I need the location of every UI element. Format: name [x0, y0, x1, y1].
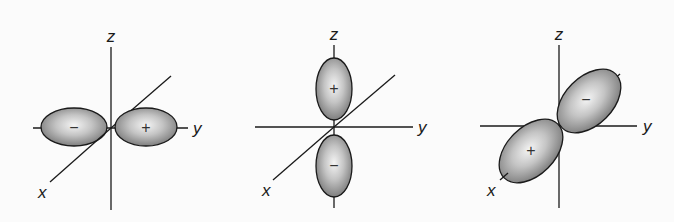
y-axis-label: y	[642, 117, 653, 136]
z-axis-label: z	[554, 25, 564, 44]
panel-pz: + − z y x	[255, 25, 428, 208]
x-axis-label: x	[486, 181, 496, 200]
y-axis-label: y	[192, 119, 203, 138]
z-axis-label: z	[106, 27, 116, 46]
sign-label: +	[526, 142, 535, 159]
y-axis-label: y	[417, 118, 428, 137]
sign-label: +	[329, 80, 338, 97]
sign-label: −	[69, 119, 78, 136]
panel-py: − + z y x	[33, 27, 203, 210]
x-axis-label: x	[261, 181, 271, 200]
x-axis-label: x	[37, 183, 47, 202]
sign-label: −	[581, 91, 590, 108]
orbital-diagram: − + z y x + − z y x − + z y x	[0, 0, 674, 222]
sign-label: −	[329, 157, 338, 174]
sign-label: +	[141, 119, 150, 136]
z-axis-label: z	[329, 25, 339, 44]
panel-px: − + z y x	[480, 25, 653, 208]
